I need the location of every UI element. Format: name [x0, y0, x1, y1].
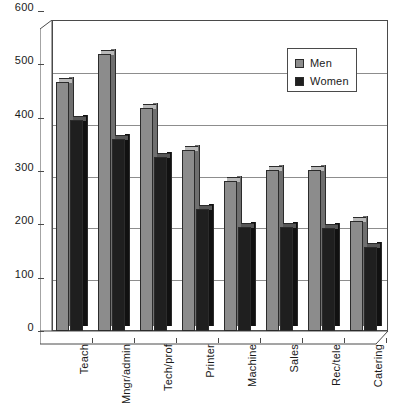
- bar-front-face: [238, 227, 251, 331]
- legend-item-women: Women: [295, 72, 356, 90]
- x-axis-tick-label: Tech/prof: [163, 344, 174, 391]
- bar-group: [136, 20, 178, 331]
- y-axis-tick-mark: [38, 171, 44, 172]
- bar-front-face: [350, 221, 363, 331]
- x-axis-tick-label: Catering: [373, 344, 384, 387]
- bar-women-tech-prof: [154, 157, 167, 331]
- legend-label-men: Men: [310, 58, 332, 69]
- legend-item-men: Men: [295, 54, 356, 72]
- bar-women-rec-tele: [322, 228, 335, 331]
- bar-men-rec-tele: [308, 170, 321, 331]
- x-axis-tick-mark: [386, 338, 387, 343]
- y-axis-tick-label: 0: [0, 322, 34, 333]
- y-axis-tick-label: 100: [0, 268, 34, 279]
- x-axis-tick-label: Machine: [247, 344, 258, 387]
- bar-front-face: [308, 170, 321, 331]
- bar-group: [220, 20, 262, 331]
- y-axis-tick-label: 300: [0, 162, 34, 173]
- bar-side-face: [335, 223, 340, 326]
- y-axis-tick-label: 600: [0, 2, 34, 13]
- bar-women-catering: [364, 247, 377, 331]
- bar-front-face: [140, 108, 153, 331]
- bar-side-face: [125, 134, 130, 326]
- y-axis-tick-mark: [38, 224, 44, 225]
- chart-legend: Men Women: [287, 48, 357, 92]
- bar-men-tech-prof: [140, 108, 153, 331]
- legend-swatch-women-icon: [295, 77, 304, 86]
- bar-men-teach: [56, 82, 69, 331]
- bar-front-face: [154, 157, 167, 331]
- bar-front-face: [56, 82, 69, 331]
- y-axis-tick-mark: [38, 11, 44, 12]
- bar-side-face: [167, 152, 172, 326]
- x-axis-tick-mark: [92, 338, 93, 343]
- y-axis-tick-label: 500: [0, 55, 34, 66]
- y-axis-tick-label: 200: [0, 215, 34, 226]
- legend-label-women: Women: [310, 76, 349, 87]
- x-axis-tick-mark: [176, 338, 177, 343]
- bar-chart: 0100200300400500600 TeachMngr/adminTech/…: [0, 0, 401, 404]
- y-axis-tick-mark: [38, 331, 44, 332]
- x-axis-tick-label: Rec/tele: [331, 344, 342, 386]
- x-axis-tick-label: Mngr/admin: [121, 344, 132, 404]
- x-axis-tick-mark: [344, 338, 345, 343]
- bar-side-face: [83, 115, 88, 326]
- bar-side-face: [209, 204, 214, 326]
- bar-women-printer: [196, 209, 209, 331]
- bar-front-face: [266, 170, 279, 331]
- bar-group: [178, 20, 220, 331]
- bar-front-face: [70, 120, 83, 331]
- bar-men-printer: [182, 150, 195, 331]
- bar-side-face: [251, 222, 256, 326]
- bar-front-face: [224, 181, 237, 331]
- bar-group: [52, 20, 94, 331]
- bar-front-face: [196, 209, 209, 331]
- bar-front-face: [112, 139, 125, 331]
- bar-women-mngr-admin: [112, 139, 125, 331]
- y-axis-tick-mark: [38, 64, 44, 65]
- bar-men-sales: [266, 170, 279, 331]
- bar-men-catering: [350, 221, 363, 331]
- bar-front-face: [280, 227, 293, 331]
- bar-front-face: [322, 228, 335, 331]
- bar-front-face: [364, 247, 377, 331]
- bar-women-teach: [70, 120, 83, 331]
- y-axis-tick-label: 400: [0, 108, 34, 119]
- bar-side-face: [377, 242, 382, 326]
- x-axis-tick-label: Teach: [79, 344, 90, 374]
- bar-men-machine: [224, 181, 237, 331]
- y-axis-tick-mark: [38, 278, 44, 279]
- legend-swatch-men-icon: [295, 59, 304, 68]
- bar-women-machine: [238, 227, 251, 331]
- x-axis-tick-mark: [302, 338, 303, 343]
- x-axis-tick-label: Sales: [289, 344, 300, 373]
- bar-women-sales: [280, 227, 293, 331]
- bar-group: [94, 20, 136, 331]
- x-axis-tick-mark: [218, 338, 219, 343]
- x-axis-tick-label: Printer: [205, 344, 216, 378]
- axis-depth-floor: [40, 331, 401, 345]
- x-axis-tick-mark: [134, 338, 135, 343]
- bar-men-mngr-admin: [98, 54, 111, 331]
- y-axis-tick-mark: [38, 118, 44, 119]
- x-axis-tick-mark: [260, 338, 261, 343]
- bar-front-face: [98, 54, 111, 331]
- bar-front-face: [182, 150, 195, 331]
- bar-side-face: [293, 222, 298, 326]
